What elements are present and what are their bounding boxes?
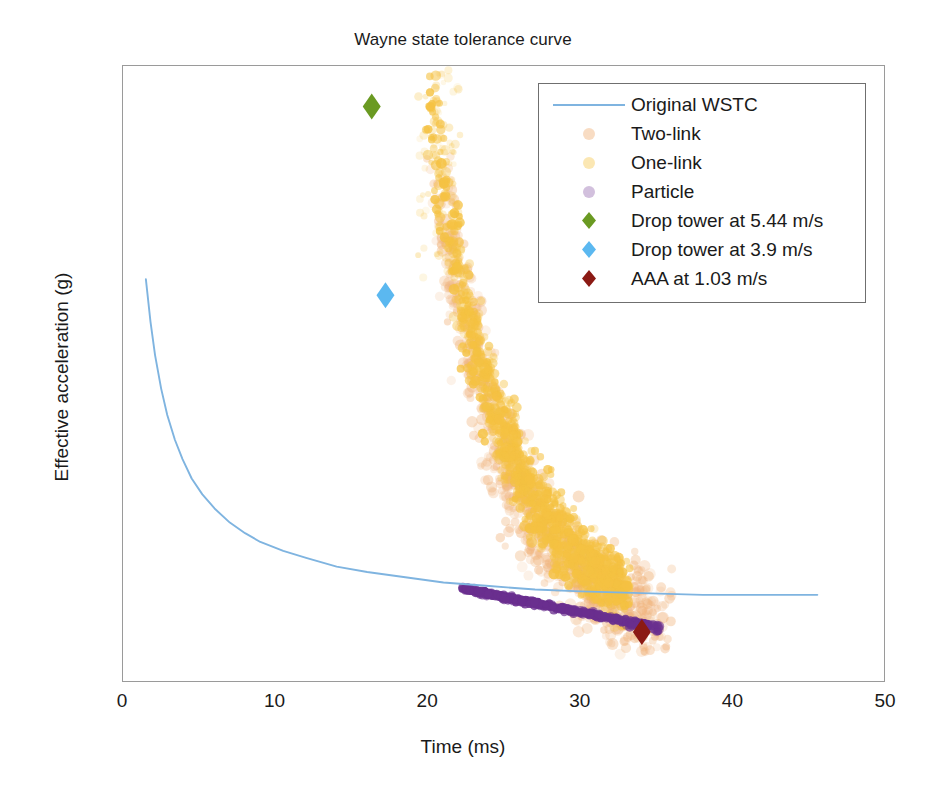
scatter-point — [443, 267, 452, 276]
legend-key — [547, 119, 631, 148]
legend-key — [547, 264, 631, 293]
scatter-point — [662, 643, 670, 651]
scatter-point — [607, 638, 619, 650]
scatter-point — [582, 609, 591, 618]
legend-dot-swatch — [583, 186, 595, 198]
chart-legend: Original WSTCTwo-linkOne-linkParticleDro… — [538, 83, 866, 303]
scatter-point — [431, 142, 437, 148]
scatter-point — [657, 601, 667, 611]
scatter-point — [531, 447, 539, 455]
scatter-point — [556, 514, 563, 521]
scatter-point — [430, 108, 439, 117]
legend-label: Original WSTC — [631, 94, 758, 116]
scatter-point — [503, 596, 510, 603]
scatter-point — [542, 602, 548, 608]
scatter-point — [566, 514, 574, 522]
scatter-point — [442, 241, 450, 249]
scatter-point — [444, 66, 452, 74]
scatter-point — [431, 134, 436, 139]
scatter-point — [436, 141, 441, 146]
legend-item[interactable]: Drop tower at 3.9 m/s — [539, 235, 865, 264]
scatter-point — [604, 578, 614, 588]
legend-key — [547, 235, 631, 264]
legend-line-swatch — [553, 104, 625, 106]
legend-label: Drop tower at 3.9 m/s — [631, 239, 813, 261]
scatter-point — [578, 584, 585, 591]
legend-label: Particle — [631, 181, 694, 203]
scatter-point — [441, 149, 448, 156]
scatter-point — [476, 457, 487, 468]
scatter-point — [484, 590, 492, 598]
x-tick-label: 40 — [702, 690, 762, 712]
legend-item[interactable]: AAA at 1.03 m/s — [539, 264, 865, 293]
legend-item[interactable]: Drop tower at 5.44 m/s — [539, 206, 865, 235]
scatter-point — [545, 496, 552, 503]
scatter-point — [435, 101, 441, 107]
legend-item[interactable]: Two-link — [539, 119, 865, 148]
scatter-point — [590, 550, 597, 557]
legend-item[interactable]: Particle — [539, 177, 865, 206]
scatter-point — [617, 560, 623, 566]
scatter-point — [470, 341, 477, 348]
legend-label: One-link — [631, 152, 702, 174]
scatter-point — [506, 469, 512, 475]
scatter-point — [477, 297, 485, 305]
scatter-point — [502, 542, 509, 549]
scatter-point — [656, 586, 666, 596]
scatter-point — [422, 126, 431, 135]
legend-label: Drop tower at 5.44 m/s — [631, 210, 823, 232]
chart-title: Wayne state tolerance curve — [0, 30, 926, 50]
scatter-point — [485, 342, 494, 351]
scatter-point — [509, 431, 518, 440]
scatter-point — [613, 580, 620, 587]
scatter-point — [609, 563, 618, 572]
scatter-point — [414, 92, 423, 101]
scatter-point — [478, 429, 488, 439]
x-tick-label: 30 — [550, 690, 610, 712]
scatter-point — [549, 569, 560, 580]
scatter-point — [447, 178, 453, 184]
legend-item[interactable]: One-link — [539, 148, 865, 177]
legend-key — [547, 177, 631, 206]
scatter-point — [503, 405, 511, 413]
scatter-point — [595, 582, 603, 590]
scatter-point — [451, 161, 457, 167]
scatter-point — [504, 396, 513, 405]
scatter-point — [466, 394, 474, 402]
scatter-point — [484, 375, 491, 382]
scatter-point — [442, 101, 447, 106]
scatter-point — [526, 555, 535, 564]
scatter-point — [611, 615, 618, 622]
scatter-point — [550, 604, 556, 610]
scatter-point — [547, 515, 555, 523]
scatter-point — [453, 267, 459, 273]
scatter-point — [517, 561, 528, 572]
scatter-point — [463, 585, 471, 593]
legend-label: Two-link — [631, 123, 701, 145]
scatter-point — [572, 570, 581, 579]
scatter-point — [636, 603, 648, 615]
scatter-point — [457, 132, 463, 138]
scatter-point — [575, 608, 583, 616]
scatter-point — [616, 569, 622, 575]
scatter-point — [512, 496, 518, 502]
scatter-point — [519, 521, 530, 532]
scatter-point — [526, 513, 533, 520]
scatter-point — [425, 191, 431, 197]
scatter-point — [654, 627, 662, 635]
scatter-point — [534, 505, 541, 512]
scatter-point — [463, 364, 471, 372]
legend-item[interactable]: Original WSTC — [539, 90, 865, 119]
scatter-point — [542, 536, 550, 544]
scatter-point — [588, 525, 595, 532]
scatter-point — [470, 318, 478, 326]
y-axis-label: Effective acceleration (g) — [51, 167, 73, 587]
scatter-point — [507, 443, 516, 452]
scatter-point — [631, 548, 638, 555]
scatter-point — [627, 621, 634, 628]
scatter-point — [447, 376, 456, 385]
scatter-point — [439, 178, 449, 188]
scatter-point — [569, 554, 578, 563]
scatter-point — [496, 533, 506, 543]
scatter-point — [515, 473, 522, 480]
